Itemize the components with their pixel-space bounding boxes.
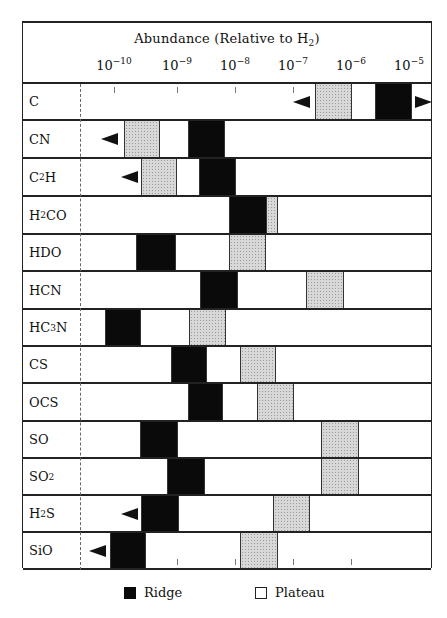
molecule-row: HCN [23,272,431,310]
tick-base: 10 [278,58,295,73]
plateau-range-bar [257,384,294,420]
cell-separator [145,533,146,568]
ridge-range-bar [171,347,206,382]
plateau-range-bar [124,121,160,157]
plateau-range-bar [273,496,310,531]
molecule-row: SO2 [23,459,431,496]
cell-separator [140,422,141,457]
cell-separator [237,272,238,308]
upper-limit-arrow-icon [293,96,310,108]
molecule-label-main: C [29,94,39,109]
cell-separator [136,235,137,270]
molecule-label-tail: CO [46,208,67,223]
molecule-row: HC3N [23,310,431,347]
legend: Ridge Plateau [0,585,447,605]
cell-separator [188,384,189,420]
cell-separator [411,84,412,119]
molecule-row: CS [23,347,431,384]
x-tick-label: 10−8 [220,56,250,73]
cell-separator [200,272,201,308]
ridge-range-bar [229,197,266,233]
cell-separator [105,310,106,345]
tick-base: 10 [394,58,411,73]
cell-separator [266,197,267,233]
tick-exponent: −6 [353,56,366,66]
tick-exponent: −10 [113,56,132,66]
plateau-range-bar [240,347,276,382]
molecule-label: C2H [29,159,56,195]
molecule-label-main: HCN [29,283,62,298]
molecule-row: OCS [23,384,431,422]
legend-plateau-label: Plateau [275,585,325,600]
tick-mark [351,559,352,565]
tick-mark [235,87,236,93]
molecule-label: OCS [29,384,59,420]
cell-separator [171,347,172,382]
chart-frame: Abundance (Relative to H2) 10−1010−910−8… [22,21,432,568]
molecule-row: H2CO [23,197,431,235]
tick-mark [293,87,294,93]
cell-separator [175,235,176,270]
x-tick-label: 10−7 [278,56,308,73]
plateau-range-bar [141,159,177,195]
tick-base: 10 [220,58,237,73]
cell-separator [204,459,205,494]
axis-title-tail: ) [315,31,320,46]
upper-limit-arrow-icon [89,545,106,557]
ridge-range-bar [188,384,222,420]
upper-limit-arrow-icon [121,508,138,520]
tick-base: 10 [336,58,353,73]
legend-ridge-label: Ridge [144,585,182,600]
x-tick-label: 10−6 [336,56,366,73]
molecule-label: SO [29,422,49,457]
molecule-label-sub: 2 [49,472,55,482]
molecule-label: CS [29,347,48,382]
molecule-label-main: HC [29,320,50,335]
tick-mark [293,559,294,565]
molecule-label: C [29,84,39,119]
ridge-range-bar [167,459,204,494]
tick-mark [114,87,115,93]
label-column-divider [80,84,81,570]
molecule-label-tail: N [56,320,67,335]
ridge-range-bar [375,84,411,119]
plateau-range-bar [306,272,344,308]
ridge-range-bar [141,496,178,531]
ridge-range-bar [110,533,145,568]
upper-limit-arrow-icon [101,133,118,145]
molecule-label-main: SO [29,432,49,447]
molecule-label: CN [29,121,50,157]
x-tick-label: 10−5 [394,56,424,73]
tick-exponent: −8 [237,56,250,66]
cell-separator [141,496,142,531]
cell-separator [224,121,225,157]
ridge-range-bar [136,235,175,270]
cell-separator [229,197,230,233]
molecule-label-main: CS [29,357,48,372]
molecule-label-main: HDO [29,245,61,260]
cell-separator [375,84,376,119]
molecule-row: HDO [23,235,431,272]
molecule-label: HC3N [29,310,67,345]
cell-separator [110,533,111,568]
molecule-label-main: H [29,506,40,521]
molecule-label: SO2 [29,459,54,494]
plateau-range-bar [321,459,359,494]
molecule-row: C [23,84,431,121]
upper-limit-arrow-icon [121,171,138,183]
plateau-range-bar [189,310,226,345]
molecule-label: H2S [29,496,55,531]
tick-mark [177,87,178,93]
molecule-row: SiO [23,533,431,570]
molecule-label: HDO [29,235,61,270]
cell-separator [188,121,189,157]
tick-exponent: −5 [411,56,424,66]
x-tick-label: 10−9 [162,56,192,73]
molecule-label-tail: H [45,170,56,185]
molecule-label-main: H [29,208,40,223]
molecule-label: HCN [29,272,62,308]
cell-separator [199,159,200,195]
molecule-label-main: CN [29,132,50,147]
molecule-label-main: SO [29,469,49,484]
ridge-range-bar [199,159,235,195]
